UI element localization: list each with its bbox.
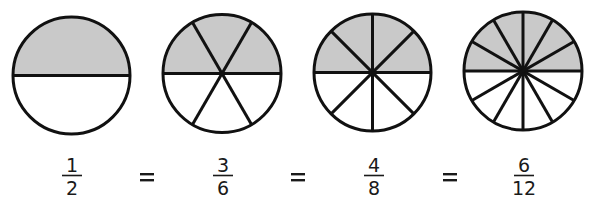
denominator: 12 [512, 177, 536, 199]
equals-signs [140, 173, 457, 181]
numerator: 4 [368, 154, 380, 176]
numerator: 1 [66, 154, 78, 176]
fraction-circle-3-of-6 [163, 15, 281, 133]
numerator: 6 [518, 154, 530, 176]
fraction-3-over-6: 36 [213, 154, 233, 199]
numerator: 3 [217, 154, 229, 176]
denominator: 8 [368, 177, 380, 199]
equals-sign [291, 173, 305, 181]
fraction-4-over-8: 48 [364, 154, 384, 199]
equals-sign [443, 173, 457, 181]
denominator: 2 [66, 177, 78, 199]
fraction-circle-6-of-12 [464, 12, 582, 130]
fraction-circle-4-of-8 [314, 14, 431, 131]
equals-sign [140, 173, 154, 181]
fraction-labels: 123648612 [62, 154, 536, 199]
equivalent-fractions-diagram: 123648612 [0, 0, 592, 207]
fraction-6-over-12: 612 [512, 154, 536, 199]
fraction-circle-1-of-2 [13, 17, 130, 134]
shaded-region [163, 15, 281, 74]
shaded-region [13, 17, 130, 75]
denominator: 6 [217, 177, 229, 199]
fraction-circles [13, 12, 582, 134]
fraction-1-over-2: 12 [62, 154, 82, 199]
